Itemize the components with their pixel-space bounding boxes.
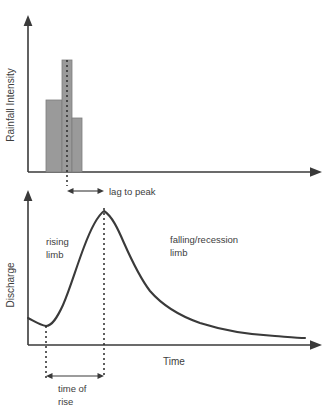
discharge-panel: Discharge Time rising limb falling/reces… [5, 190, 322, 378]
time-of-rise-left-arrow-icon [46, 373, 53, 379]
discharge-x-axis-arrow-icon [310, 340, 322, 350]
time-of-rise-right-arrow-icon [98, 373, 105, 379]
rising-limb-label-line1: rising [46, 236, 69, 247]
rainfall-y-axis-arrow-icon [24, 15, 33, 26]
time-of-rise-label-line2: rise [58, 396, 73, 407]
discharge-y-axis-title: Discharge [5, 262, 16, 307]
rainfall-bar-3 [72, 118, 82, 172]
lag-to-peak-left-arrow-icon [67, 188, 74, 194]
time-of-rise-label-line1: time of [58, 383, 87, 394]
rainfall-panel: Rainfall Intensity [5, 15, 322, 186]
lag-to-peak-annotation: lag to peak [67, 186, 156, 197]
time-of-rise-annotation: time of rise [46, 373, 104, 407]
rainfall-x-axis-arrow-icon [310, 167, 322, 177]
lag-to-peak-right-arrow-icon [98, 188, 105, 194]
falling-limb-label-line2: limb [170, 247, 187, 258]
hydrograph-diagram: Rainfall Intensity lag to peak Dischar [0, 0, 333, 415]
rising-limb-label-line2: limb [46, 249, 63, 260]
diagram-canvas: Rainfall Intensity lag to peak Dischar [0, 0, 333, 415]
discharge-x-axis-title: Time [163, 356, 185, 367]
rainfall-bar-1 [46, 100, 62, 172]
lag-to-peak-label: lag to peak [109, 186, 156, 197]
falling-limb-label-line1: falling/recession [170, 234, 238, 245]
hydrograph-curve [28, 211, 305, 338]
discharge-y-axis-arrow-icon [24, 190, 33, 201]
rainfall-y-axis-title: Rainfall Intensity [5, 68, 16, 141]
